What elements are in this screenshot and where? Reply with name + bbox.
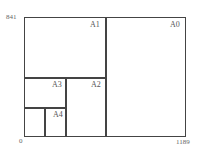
- region-label-a4: A4: [53, 111, 63, 119]
- region-label-a2: A2: [91, 81, 101, 89]
- region-label-a0: A0: [170, 21, 180, 29]
- region-label-a3: A3: [52, 81, 62, 89]
- origin-label: 0: [19, 138, 23, 145]
- region-label-a1: A1: [90, 21, 100, 29]
- y-max-label: 841: [6, 14, 17, 21]
- x-max-label: 1189: [176, 139, 190, 146]
- divider-a4-a5: [44, 107, 46, 137]
